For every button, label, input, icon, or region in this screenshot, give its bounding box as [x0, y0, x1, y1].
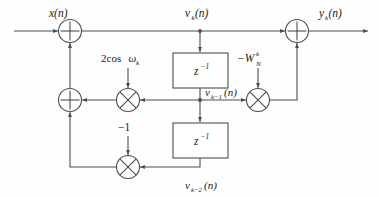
junction-tap-v-k — [198, 29, 202, 33]
svg-text:v: v — [185, 7, 191, 19]
svg-text:N: N — [255, 60, 261, 68]
svg-text:−1: −1 — [201, 62, 210, 71]
wire-multneg-to-feedback-adder — [70, 112, 116, 167]
label-input-x-n: x(n) — [48, 7, 68, 20]
svg-text:(n): (n) — [329, 7, 343, 20]
label-coefficient-minus-w-n-k: −W N k — [237, 50, 261, 68]
svg-text:k−2: k−2 — [191, 186, 203, 193]
svg-text:y: y — [318, 7, 325, 20]
diagram-canvas: x(n) v k (n) y k (n) 2cos ω k −W N k z −… — [0, 0, 379, 197]
multiplier-2cos-omega-k — [117, 89, 140, 112]
label-v-k-n: v k (n) — [185, 7, 209, 22]
multiplier-minus-one — [117, 156, 140, 179]
svg-text:−W: −W — [237, 52, 256, 64]
wire-multwnk-to-output-adder — [270, 43, 297, 100]
junction-tap-v-k-1 — [198, 98, 202, 102]
svg-text:(n): (n) — [204, 179, 217, 192]
svg-text:k−1: k−1 — [211, 93, 222, 100]
multiplier-minus-wnk — [247, 89, 270, 112]
label-v-k-minus-2-n: v k−2 (n) — [185, 179, 217, 193]
svg-text:k: k — [136, 59, 140, 67]
adder-feedback — [59, 89, 82, 112]
svg-text:2cos: 2cos — [101, 52, 121, 64]
adder-input — [59, 20, 82, 43]
svg-text:k: k — [256, 50, 260, 58]
label-coefficient-minus-one: −1 — [118, 121, 130, 133]
svg-text:z: z — [193, 65, 199, 77]
svg-text:z: z — [193, 135, 199, 147]
label-output-y-k-n: y k (n) — [318, 7, 342, 22]
svg-text:(n): (n) — [224, 86, 237, 99]
svg-text:v: v — [185, 179, 190, 191]
adder-output — [286, 20, 309, 43]
label-coefficient-2cos-omega-k: 2cos ω k — [101, 52, 140, 67]
svg-text:v: v — [205, 86, 210, 98]
svg-text:−1: −1 — [201, 132, 210, 141]
svg-text:(n): (n) — [195, 7, 209, 20]
wire-delay2-to-multneg — [140, 158, 200, 167]
goertzel-signal-flow-diagram: x(n) v k (n) y k (n) 2cos ω k −W N k z −… — [0, 0, 379, 197]
